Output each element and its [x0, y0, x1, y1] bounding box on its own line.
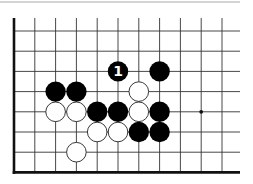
- black-stone: [87, 102, 107, 122]
- white-stone: [129, 82, 149, 102]
- white-stone: [46, 102, 66, 122]
- black-stone: [45, 81, 65, 101]
- go-board-diagram: 1: [0, 0, 253, 184]
- black-stone: [149, 61, 169, 81]
- white-stone-icon: [87, 122, 107, 142]
- black-stone: [149, 102, 169, 122]
- star-points: [199, 110, 203, 114]
- black-stone-icon: [129, 122, 149, 142]
- black-stone-icon: [149, 61, 169, 81]
- move-number-label: 1: [113, 63, 123, 79]
- white-stone: [129, 102, 149, 122]
- white-stone-icon: [67, 102, 87, 122]
- white-stone-icon: [108, 122, 128, 142]
- white-stone-icon: [67, 142, 87, 162]
- black-stone-icon: [149, 122, 169, 142]
- white-stone: [108, 122, 128, 142]
- black-stone: [149, 122, 169, 142]
- black-stone: [129, 122, 149, 142]
- black-stone-icon: [45, 81, 65, 101]
- white-stone: [67, 102, 87, 122]
- white-stone: [67, 142, 87, 162]
- white-stone-icon: [46, 102, 66, 122]
- black-stone: 1: [108, 61, 128, 81]
- white-stone-icon: [129, 82, 149, 102]
- black-stone-icon: [108, 102, 128, 122]
- star-point-icon: [199, 110, 203, 114]
- black-stone-icon: [66, 81, 86, 101]
- black-stone-icon: [149, 102, 169, 122]
- white-stone-icon: [129, 102, 149, 122]
- black-stone: [66, 81, 86, 101]
- black-stone-icon: [87, 102, 107, 122]
- black-stone: [108, 102, 128, 122]
- white-stone: [87, 122, 107, 142]
